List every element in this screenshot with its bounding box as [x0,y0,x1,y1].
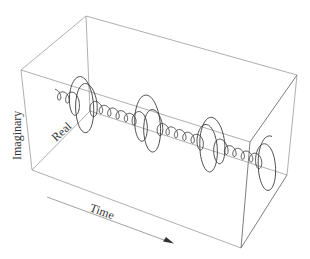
imaginary-axis-label: Imaginary [10,111,24,160]
real-axis-label: Real [49,119,75,145]
helix-curve [55,77,276,191]
helix-diagram: Imaginary Real Time [0,0,310,259]
time-axis-label: Time [88,201,116,223]
arrow-head-icon [163,237,174,244]
